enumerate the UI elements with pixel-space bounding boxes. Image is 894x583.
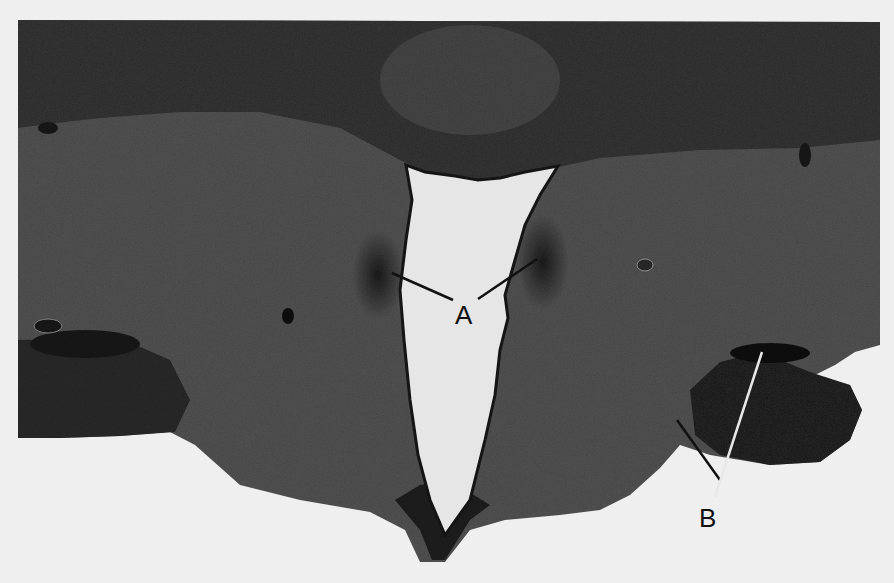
label-b: B bbox=[699, 503, 716, 533]
micrograph-frame: A B bbox=[0, 0, 894, 583]
right-dark-streak bbox=[730, 343, 810, 363]
vessel bbox=[637, 259, 653, 271]
vessel bbox=[282, 308, 294, 324]
label-a: A bbox=[455, 300, 473, 330]
brain-section-micrograph: A B bbox=[0, 0, 894, 583]
vessel bbox=[38, 122, 58, 134]
vessel bbox=[799, 143, 811, 167]
vessel bbox=[34, 319, 62, 333]
left-streak bbox=[30, 330, 140, 358]
upper-band-highlight bbox=[380, 25, 560, 135]
